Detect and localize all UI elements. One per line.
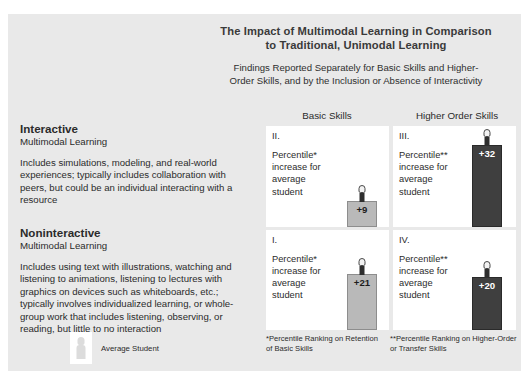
bar-wrap-iii: +32 [472,129,502,227]
page-subtitle-line1: Findings Reported Separately for Basic S… [203,61,509,74]
quadrant-label-i: I. [272,234,277,245]
student-head-icon [484,261,491,269]
legend-student-head-icon [78,337,85,345]
bar-iv: +20 [472,277,502,330]
quadrant-text-i: Percentile* increase for average student [272,253,338,302]
bar-iii: +32 [472,145,502,227]
quadrant-text-iii: Percentile** increase for average studen… [399,149,465,198]
student-head-icon [359,185,366,193]
quadrant-label-iv: IV. [399,234,410,245]
legend: Average Student [70,332,159,364]
bar-value-iv: +20 [479,280,495,329]
footnote-higher-order-skills: **Percentile Ranking on Higher-Order or … [390,334,520,353]
student-figure-icon [482,261,493,278]
student-body-icon [485,137,490,146]
student-head-icon [484,129,491,137]
page-subtitle: Findings Reported Separately for Basic S… [203,61,509,87]
description-noninteractive: Noninteractive Multimodal Learning Inclu… [20,226,252,335]
quadrant-cell-ii: II. Percentile* increase for average stu… [266,126,389,227]
description-noninteractive-body: Includes using text with illustrations, … [20,261,252,335]
description-interactive-subheading: Multimodal Learning [20,135,252,148]
bar-value-ii: +9 [357,204,368,226]
student-body-icon [485,269,490,278]
infographic-panel: The Impact of Multimodal Learning in Com… [8,14,521,371]
student-head-icon [359,258,366,266]
bar-value-iii: +32 [479,148,495,226]
student-body-icon [360,193,365,202]
bar-wrap-ii: +9 [347,185,377,227]
quadrant-label-ii: II. [272,130,280,141]
description-interactive-heading: Interactive [20,122,252,135]
quadrant-cell-iv: IV. Percentile** increase for average st… [393,230,516,331]
description-interactive-body: Includes simulations, modeling, and real… [20,157,252,207]
bar-wrap-iv: +20 [472,261,502,330]
page-title-line1: The Impact of Multimodal Learning in Com… [203,24,509,38]
legend-student-body-icon [77,345,86,359]
quadrant-text-ii: Percentile* increase for average student [272,149,338,198]
title-block: The Impact of Multimodal Learning in Com… [203,24,509,87]
bar-ii: +9 [347,201,377,227]
bar-i: +21 [347,274,377,330]
quadrant-label-iii: III. [399,130,409,141]
student-figure-icon [357,185,368,202]
legend-student-figure-icon [70,332,92,364]
page-subtitle-line2: Order Skills, and by the Inclusion or Ab… [203,74,509,87]
page-title: The Impact of Multimodal Learning in Com… [203,24,509,52]
bar-wrap-i: +21 [347,258,377,330]
quadrant-text-iv: Percentile** increase for average studen… [399,253,465,302]
page-title-line2: to Traditional, Unimodal Learning [203,38,509,52]
column-header-higher-order-skills: Higher Order Skills [390,110,524,121]
footnote-basic-skills: *Percentile Ranking on Retention of Basi… [266,334,384,353]
column-header-basic-skills: Basic Skills [266,110,388,121]
student-body-icon [360,266,365,275]
description-interactive: Interactive Multimodal Learning Includes… [20,122,252,207]
quadrant-cell-i: I. Percentile* increase for average stud… [266,230,389,331]
student-figure-icon [482,129,493,146]
student-figure-icon [357,258,368,275]
quadrant-grid: II. Percentile* increase for average stu… [266,126,516,330]
quadrant-cell-iii: III. Percentile** increase for average s… [393,126,516,227]
legend-label: Average Student [101,344,159,353]
bar-value-i: +21 [354,277,370,329]
description-noninteractive-heading: Noninteractive [20,226,252,239]
description-noninteractive-subheading: Multimodal Learning [20,239,252,252]
